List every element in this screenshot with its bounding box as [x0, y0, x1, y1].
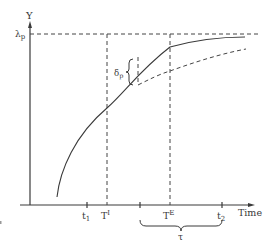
stray-mark [0, 221, 2, 224]
learning-curve-diagram: Y Time λp δp t1 TI TE t2 τ [0, 0, 270, 246]
tick-label-TE: TE [163, 209, 174, 221]
y-axis-label: Y [25, 10, 33, 21]
tick-label-t2: t2 [217, 210, 225, 223]
lower-curve [138, 49, 246, 85]
gap-label: δp [114, 68, 123, 80]
tick-label-TI: TI [101, 209, 110, 221]
interval-label: τ [178, 232, 183, 242]
y-axis-arrow-icon [28, 21, 32, 28]
asymptote-label: λp [15, 29, 26, 41]
learning-curve [57, 37, 245, 197]
tick-label-t1: t1 [82, 210, 90, 223]
gap-brace [126, 59, 133, 85]
x-axis-label: Time [238, 207, 262, 218]
interval-brace [140, 220, 222, 231]
